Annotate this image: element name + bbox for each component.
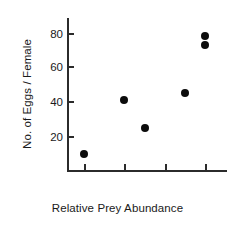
y-tick-label-60: 60 <box>50 61 63 73</box>
y-tick-label-20: 20 <box>50 131 63 143</box>
x-tick-1: 1 <box>84 164 86 170</box>
y-tick-40: 40 <box>69 101 74 103</box>
y-tick-60: 60 <box>69 66 74 68</box>
data-point <box>80 150 88 158</box>
y-tick-20: 20 <box>69 136 74 138</box>
y-tick-80: 80 <box>69 33 74 35</box>
data-point <box>120 96 128 104</box>
y-axis-line <box>67 18 69 172</box>
x-tick-4: 4 <box>205 164 207 170</box>
data-point <box>141 124 149 132</box>
data-point <box>201 32 209 40</box>
data-point <box>181 89 189 97</box>
x-axis-label: Relative Prey Abundance <box>0 202 235 214</box>
plot-area: 80 60 40 20 1 2 3 4 <box>67 18 227 172</box>
y-tick-label-40: 40 <box>50 96 63 108</box>
data-point <box>201 41 209 49</box>
x-tick-2: 2 <box>124 164 126 170</box>
y-axis-label: No. of Eggs / Female <box>21 14 33 174</box>
scatter-plot-figure: No. of Eggs / Female 80 60 40 20 1 2 3 4 <box>0 0 235 226</box>
x-tick-3: 3 <box>165 164 167 170</box>
x-axis-line <box>67 170 227 172</box>
y-tick-label-80: 80 <box>50 28 63 40</box>
